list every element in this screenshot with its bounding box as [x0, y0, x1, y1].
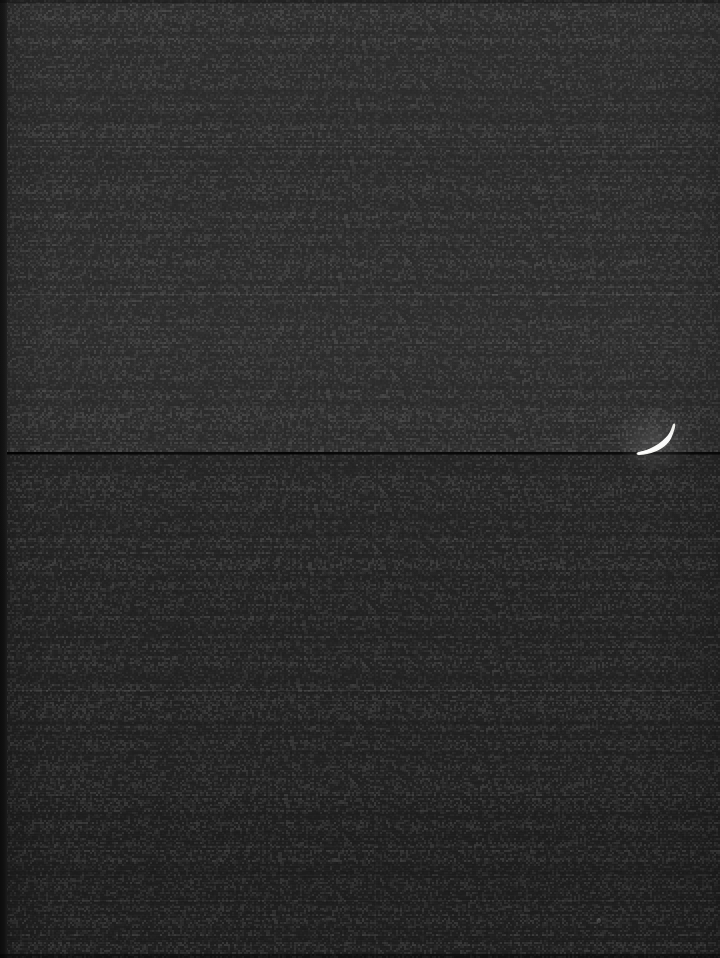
left-edge-strip [0, 0, 7, 958]
horizon-line [0, 452, 720, 454]
background-zone-low-striated [0, 687, 720, 792]
background-zone-lower [0, 537, 720, 687]
top-edge-shadow [0, 0, 720, 3]
background-zone-bottom [0, 792, 720, 958]
background-zone-middle [0, 294, 720, 452]
background-zone-upper [0, 146, 720, 294]
night-photograph [0, 0, 720, 958]
background-zone-top [0, 0, 720, 146]
background-zone-below-horizon [0, 453, 720, 537]
bottom-edge-shadow [0, 954, 720, 958]
